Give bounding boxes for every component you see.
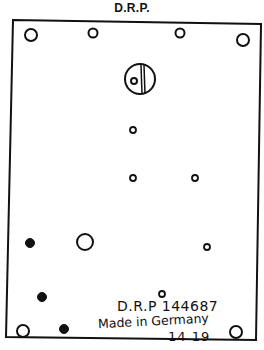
small-hole — [130, 127, 136, 133]
small-hole — [204, 244, 210, 250]
screw-outer-circle — [125, 64, 155, 94]
medium-hole — [89, 29, 98, 38]
filled-hole — [60, 325, 69, 334]
large-hole — [237, 34, 249, 46]
screw-small-hole — [131, 78, 137, 84]
small-hole — [130, 175, 136, 181]
screw-slot-line — [141, 65, 142, 94]
large-hole — [230, 326, 242, 338]
medium-hole — [176, 29, 185, 38]
large-hole — [77, 234, 93, 250]
small-hole — [192, 175, 198, 181]
filled-hole — [26, 239, 35, 248]
large-hole — [25, 29, 37, 41]
screw-slot-line-2 — [144, 65, 145, 94]
small-hole — [159, 291, 165, 297]
plate-outline — [6, 20, 261, 340]
stamp-model-number: 14 19 — [168, 329, 210, 344]
filled-hole — [38, 293, 47, 302]
holes-group — [17, 29, 249, 339]
large-hole — [17, 325, 29, 337]
plate-drawing: D.R.P 144687 Made in Germany 14 19 — [0, 0, 264, 350]
screw-head — [125, 64, 155, 94]
